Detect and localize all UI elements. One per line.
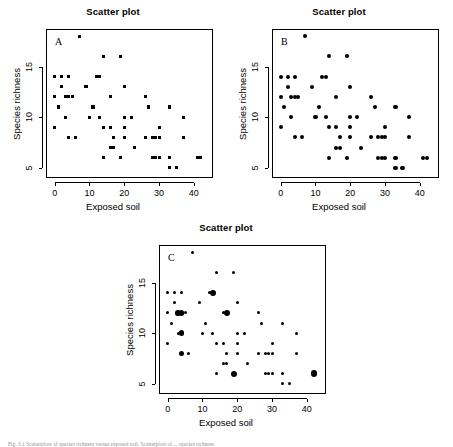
x-tick-mark	[281, 183, 282, 186]
data-point	[271, 352, 274, 355]
data-point	[123, 85, 126, 88]
x-tick-label: 30	[260, 404, 284, 414]
data-point	[199, 156, 202, 159]
data-point	[373, 105, 377, 109]
y-tick-label: 5	[23, 158, 35, 178]
data-point	[279, 95, 283, 99]
data-point	[119, 156, 122, 159]
data-point	[210, 290, 216, 296]
y-axis-label: Species richness	[123, 245, 135, 394]
y-tick-label: 5	[136, 374, 148, 394]
data-point	[201, 332, 204, 335]
data-point	[144, 136, 147, 139]
panel-c-title: Scatter plot	[113, 222, 339, 233]
data-point	[393, 156, 397, 160]
data-point	[84, 85, 87, 88]
scatter-panel-c: Scatter plot C51015010203040Exposed soil…	[113, 222, 339, 434]
x-tick-mark	[272, 399, 273, 402]
x-tick-mark	[420, 183, 421, 186]
data-point	[109, 126, 112, 129]
y-tick-mark	[39, 67, 42, 68]
x-tick-mark	[89, 183, 90, 186]
data-point	[98, 116, 101, 119]
x-tick-mark	[202, 399, 203, 402]
data-point	[383, 156, 387, 160]
x-tick-label: 20	[112, 188, 136, 198]
data-point	[231, 371, 237, 377]
x-tick-mark	[315, 183, 316, 186]
data-point	[236, 342, 239, 345]
y-tick-mark	[265, 168, 268, 169]
data-point	[123, 116, 126, 119]
data-point	[67, 75, 70, 78]
panel-b-title: Scatter plot	[226, 6, 452, 17]
data-point	[158, 126, 161, 129]
data-point	[144, 95, 147, 98]
y-axis-label: Species richness	[10, 29, 22, 178]
data-point	[286, 85, 290, 89]
data-point	[109, 95, 112, 98]
data-point	[338, 146, 342, 150]
data-point	[98, 75, 101, 78]
data-point	[279, 75, 283, 79]
x-tick-label: 0	[269, 188, 293, 198]
data-point	[158, 156, 161, 159]
x-tick-mark	[159, 183, 160, 186]
panel-letter-c: C	[168, 253, 175, 263]
x-tick-label: 30	[147, 188, 171, 198]
data-point	[91, 105, 94, 108]
data-point	[400, 166, 404, 170]
data-point	[393, 105, 397, 109]
x-tick-mark	[350, 183, 351, 186]
x-tick-label: 0	[156, 404, 180, 414]
figure-caption: Fig. 3.1 Scatterplots of species richnes…	[8, 441, 448, 447]
data-point	[281, 322, 284, 325]
data-point	[168, 156, 171, 159]
data-point	[71, 95, 74, 98]
x-tick-label: 10	[303, 188, 327, 198]
data-point	[123, 136, 126, 139]
y-axis-line	[42, 67, 43, 168]
y-tick-mark	[39, 168, 42, 169]
data-point	[198, 301, 201, 304]
data-point	[78, 35, 81, 38]
x-axis-label: Exposed soil	[113, 417, 339, 428]
data-point	[243, 332, 246, 335]
x-tick-mark	[124, 183, 125, 186]
y-tick-label: 15	[249, 57, 261, 77]
y-tick-mark	[152, 384, 155, 385]
data-point	[224, 310, 230, 316]
data-point	[168, 105, 171, 108]
data-point	[257, 352, 260, 355]
data-point	[112, 136, 115, 139]
data-point	[53, 126, 56, 129]
x-tick-label: 40	[182, 188, 206, 198]
y-tick-mark	[39, 117, 42, 118]
data-point	[53, 75, 56, 78]
scatter-panel-a: Scatter plot A51015010203040Exposed soil…	[0, 6, 226, 218]
data-point	[158, 136, 161, 139]
x-tick-mark	[55, 183, 56, 186]
data-point	[295, 332, 298, 335]
y-axis-line	[155, 283, 156, 384]
data-point	[425, 156, 429, 160]
data-point	[295, 352, 298, 355]
y-axis-line	[268, 67, 269, 168]
y-tick-label: 10	[23, 107, 35, 127]
data-point	[133, 146, 136, 149]
x-axis-label: Exposed soil	[0, 201, 226, 212]
data-point	[293, 75, 297, 79]
data-point	[102, 126, 105, 129]
data-point	[147, 105, 150, 108]
y-axis-label: Species richness	[236, 29, 248, 178]
data-point	[60, 85, 63, 88]
data-point	[74, 136, 77, 139]
data-point	[236, 332, 239, 335]
scatter-panel-b: Scatter plot B51015010203040Exposed soil…	[226, 6, 452, 218]
data-point	[286, 75, 290, 79]
y-tick-mark	[152, 333, 155, 334]
data-point	[345, 156, 349, 160]
data-point	[222, 342, 225, 345]
data-point	[168, 166, 171, 169]
y-tick-label: 15	[23, 57, 35, 77]
